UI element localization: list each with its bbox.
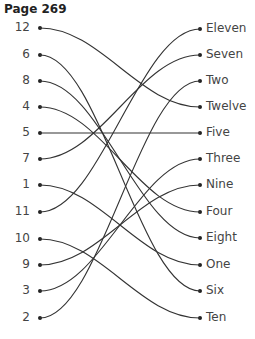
left-number-label: 12 <box>0 20 30 34</box>
right-word-label: Eleven <box>206 21 246 35</box>
right-word-label: Two <box>206 73 229 87</box>
left-number-label: 3 <box>0 283 30 297</box>
right-word-label: Seven <box>206 47 243 61</box>
left-number-label: 8 <box>0 73 30 87</box>
left-number-label: 6 <box>0 47 30 61</box>
left-number-label: 4 <box>0 99 30 113</box>
right-word-label: Three <box>206 151 240 165</box>
right-word-label: Six <box>206 283 224 297</box>
left-number-label: 11 <box>0 204 30 218</box>
right-word-label: Ten <box>206 310 226 324</box>
connection-line <box>40 81 200 318</box>
connection-line <box>40 55 200 159</box>
left-number-label: 1 <box>0 177 30 191</box>
left-number-label: 7 <box>0 151 30 165</box>
left-number-label: 10 <box>0 231 30 245</box>
connection-line <box>40 55 200 291</box>
connection-line <box>40 29 200 212</box>
left-number-label: 2 <box>0 310 30 324</box>
right-word-label: Four <box>206 204 232 218</box>
connection-line <box>40 159 200 291</box>
left-number-label: 9 <box>0 257 30 271</box>
right-word-label: Twelve <box>206 99 246 113</box>
right-word-label: Five <box>206 125 230 139</box>
left-number-label: 5 <box>0 125 30 139</box>
right-word-label: Nine <box>206 177 233 191</box>
connection-line <box>40 107 200 212</box>
right-word-label: One <box>206 257 230 271</box>
right-word-label: Eight <box>206 230 237 244</box>
